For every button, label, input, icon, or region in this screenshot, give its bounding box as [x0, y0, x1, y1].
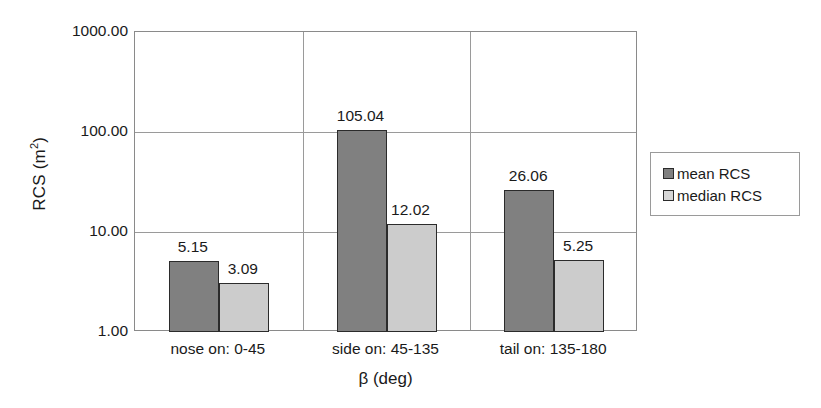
legend-item[interactable]: mean RCS: [663, 162, 791, 184]
legend: mean RCSmedian RCS: [650, 152, 800, 216]
category-separator: [303, 32, 304, 330]
x-axis-category-label: tail on: 135-180: [500, 340, 607, 358]
y-axis-tick-label: 100.00: [48, 122, 128, 140]
bar-value-label: 26.06: [509, 167, 548, 185]
bar-value-label: 3.09: [228, 260, 258, 278]
legend-label: mean RCS: [677, 165, 750, 182]
legend-swatch-icon: [663, 190, 674, 201]
bar-value-label: 12.02: [391, 201, 430, 219]
bar[interactable]: [554, 260, 604, 332]
y-axis-tick-label: 10.00: [48, 222, 128, 240]
bar-value-label: 105.04: [337, 107, 384, 125]
bar-value-label: 5.15: [178, 238, 208, 256]
legend-swatch-icon: [663, 168, 674, 179]
y-axis-tick-label: 1.00: [48, 322, 128, 340]
plot-area: [134, 31, 637, 331]
legend-label: median RCS: [677, 187, 762, 204]
category-separator: [470, 32, 471, 330]
y-axis-title-superscript: 2: [28, 143, 40, 149]
y-axis-tick-label: 1000.00: [48, 22, 128, 40]
x-axis-title: β (deg): [134, 369, 637, 389]
y-axis-title-close-paren: ): [30, 137, 49, 143]
bar[interactable]: [504, 190, 554, 332]
y-axis-title: RCS (m2): [28, 99, 50, 249]
legend-item[interactable]: median RCS: [663, 184, 791, 206]
bar[interactable]: [169, 261, 219, 332]
bar[interactable]: [337, 130, 387, 332]
bar-value-label: 5.25: [563, 237, 593, 255]
y-axis-title-text: RCS (m: [30, 149, 49, 211]
bar[interactable]: [387, 224, 437, 332]
x-axis-category-label: nose on: 0-45: [170, 340, 265, 358]
x-axis-category-label: side on: 45-135: [332, 340, 439, 358]
rcs-bar-chart: RCS (m2) 1000.00100.0010.001.00 5.153.09…: [0, 0, 821, 408]
bar[interactable]: [219, 283, 269, 332]
